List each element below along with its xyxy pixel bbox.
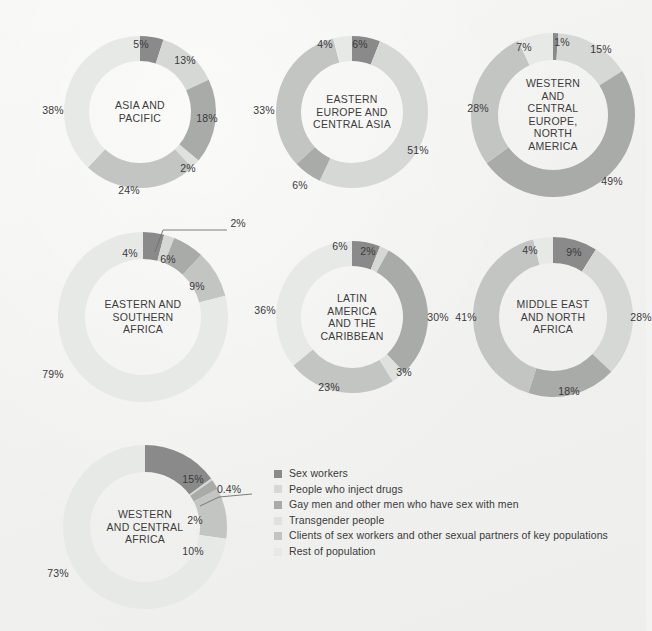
slice-label: 5% (133, 38, 148, 50)
slice-label: 7% (516, 41, 531, 53)
legend-label: Rest of population (289, 544, 375, 560)
slice-label: 28% (467, 102, 488, 114)
donut-ring-eastern-and-southern-africa (56, 230, 230, 404)
slice-label: 4% (317, 38, 332, 50)
slice-label: 6% (352, 38, 367, 50)
donut-slice (88, 149, 192, 188)
slice-label: 28% (630, 311, 651, 323)
slice-label: 15% (590, 43, 611, 55)
donut-chart-western-and-central-europe-north-america: WESTERNANDCENTRALEUROPE,NORTHAMERICA (469, 31, 637, 199)
slice-label: 36% (254, 304, 275, 316)
slice-label: 41% (455, 311, 476, 323)
legend: Sex workersPeople who inject drugsGay me… (274, 466, 608, 560)
donut-chart-western-and-central-africa: WESTERNAND CENTRALAFRICA (61, 443, 229, 611)
legend-label: Transgender people (289, 513, 384, 529)
slice-label: 4% (522, 244, 537, 256)
slice-label: 2% (360, 245, 375, 257)
slice-label: 23% (318, 381, 339, 393)
slice-label: 79% (42, 368, 63, 380)
donut-chart-eastern-and-southern-africa: EASTERN ANDSOUTHERNAFRICA (56, 230, 230, 404)
legend-swatch-icon (274, 470, 282, 478)
legend-swatch-icon (274, 485, 282, 493)
donut-slice (64, 36, 140, 167)
donut-ring-middle-east-and-north-africa (471, 235, 635, 399)
legend-swatch-icon (274, 532, 282, 540)
slice-label: 9% (566, 246, 581, 258)
donut-ring-western-and-central-europe-north-america (469, 31, 637, 199)
legend-swatch-icon (274, 517, 282, 525)
donut-slice (293, 350, 392, 393)
slice-label: 51% (407, 144, 428, 156)
slice-label: 1% (554, 36, 569, 48)
legend-item-4: Clients of sex workers and other sexual … (274, 528, 608, 544)
slice-label: 10% (182, 545, 203, 557)
donut-ring-western-and-central-africa (61, 443, 229, 611)
legend-label: Sex workers (289, 466, 348, 482)
slice-label: 18% (196, 112, 217, 124)
donut-slice (276, 38, 339, 164)
donut-slice (473, 240, 540, 394)
slice-label: 13% (174, 54, 195, 66)
slice-label: 6% (160, 253, 175, 265)
slice-label: 38% (42, 104, 63, 116)
donut-slice (276, 241, 352, 365)
legend-item-5: Rest of population (274, 544, 608, 560)
legend-label: Clients of sex workers and other sexual … (289, 528, 608, 544)
slice-label: 15% (182, 473, 203, 485)
callout-label: 2% (230, 217, 245, 229)
donut-slice (582, 249, 633, 371)
slice-label: 6% (292, 179, 307, 191)
slice-label: 3% (396, 366, 411, 378)
slice-label: 6% (332, 240, 347, 252)
slice-label: 2% (180, 162, 195, 174)
donut-slice (377, 250, 428, 372)
legend-swatch-icon (274, 548, 282, 556)
slice-label: 73% (47, 567, 68, 579)
legend-item-1: People who inject drugs (274, 482, 608, 498)
callout-label: 0.4% (217, 483, 241, 495)
legend-swatch-icon (274, 501, 282, 509)
slice-label: 33% (253, 104, 274, 116)
legend-item-3: Transgender people (274, 513, 608, 529)
legend-item-0: Sex workers (274, 466, 608, 482)
donut-chart-middle-east-and-north-africa: MIDDLE EASTAND NORTHAFRICA (471, 235, 635, 399)
slice-label: 4% (122, 247, 137, 259)
slice-label: 24% (118, 184, 139, 196)
donut-ring-eastern-europe-and-central-asia (274, 34, 430, 190)
legend-label: Gay men and other men who have sex with … (289, 497, 519, 513)
slice-label: 49% (601, 175, 622, 187)
slice-label: 9% (189, 280, 204, 292)
donut-chart-eastern-europe-and-central-asia: EASTERNEUROPE ANDCENTRAL ASIA (274, 34, 430, 190)
slice-label: 18% (558, 385, 579, 397)
legend-item-2: Gay men and other men who have sex with … (274, 497, 608, 513)
slice-label: 2% (187, 514, 202, 526)
legend-label: People who inject drugs (289, 482, 403, 498)
slice-label: 30% (427, 311, 448, 323)
